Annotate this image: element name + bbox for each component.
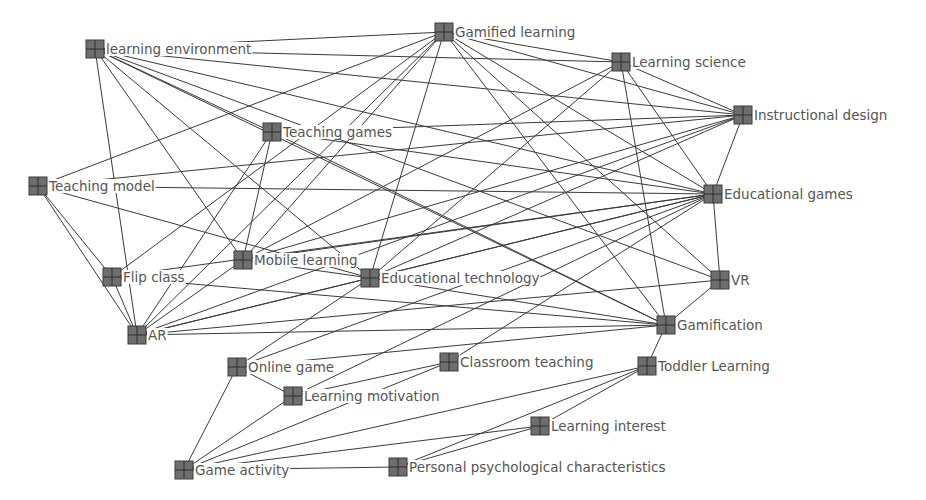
node-gamified-learning[interactable] [435, 23, 453, 41]
node-game-activity[interactable] [175, 461, 193, 479]
node-label-toddler-learning: Toddler Learning [657, 358, 770, 374]
node-label-learning-interest: Learning interest [551, 418, 666, 434]
edge-gamified-learning--instructional-design [444, 32, 743, 115]
node-flip-class[interactable] [103, 268, 121, 286]
edge-teaching-games--educational-games [272, 132, 713, 194]
edge-toddler-learning--learning-interest [540, 366, 647, 426]
node-mobile-learning[interactable] [234, 251, 252, 269]
network-graph: Gamified learninglearning environmentLea… [0, 0, 926, 500]
node-label-classroom-teaching: Classroom teaching [460, 354, 593, 370]
node-label-instructional-design: Instructional design [754, 107, 887, 123]
edge-teaching-games--mobile-learning [243, 132, 272, 260]
edge-instructional-design--educational-games [713, 115, 743, 194]
edge-teaching-games--ar [137, 132, 272, 335]
nodes-layer [29, 23, 752, 479]
node-toddler-learning[interactable] [638, 357, 656, 375]
node-personal-psych[interactable] [389, 458, 407, 476]
node-label-teaching-model: Teaching model [48, 178, 155, 194]
node-label-learning-motivation: Learning motivation [304, 388, 439, 404]
node-instructional-design[interactable] [734, 106, 752, 124]
node-educational-games[interactable] [704, 185, 722, 203]
edge-gamified-learning--mobile-learning [243, 32, 444, 260]
edge-online-game--game-activity [184, 367, 237, 470]
edge-ar--gamification [137, 325, 666, 335]
node-label-mobile-learning: Mobile learning [254, 252, 358, 268]
node-learning-science[interactable] [612, 53, 630, 71]
node-learning-interest[interactable] [531, 417, 549, 435]
node-label-educational-technology: Educational technology [381, 270, 540, 286]
edge-vr--ar [137, 280, 720, 335]
edge-teaching-model--ar [38, 186, 137, 335]
node-label-personal-psych: Personal psychological characteristics [409, 459, 666, 475]
node-teaching-games[interactable] [263, 123, 281, 141]
node-label-flip-class: Flip class [123, 269, 185, 285]
node-label-online-game: Online game [248, 359, 334, 375]
node-label-gamified-learning: Gamified learning [455, 24, 575, 40]
edge-educational-games--flip-class [112, 194, 713, 277]
node-label-game-activity: Game activity [195, 462, 289, 478]
node-label-learning-science: Learning science [632, 54, 746, 70]
edge-instructional-design--educational-technology [370, 115, 743, 278]
edge-gamified-learning--flip-class [112, 32, 444, 277]
edge-learning-science--educational-technology [370, 62, 621, 278]
edge-instructional-design--ar [137, 115, 743, 335]
node-vr[interactable] [711, 271, 729, 289]
node-label-ar: AR [148, 327, 167, 343]
node-teaching-model[interactable] [29, 177, 47, 195]
edge-educational-technology--ar [137, 278, 370, 335]
edge-teaching-model--flip-class [38, 186, 112, 277]
edges-layer [38, 32, 743, 470]
edge-learning-environment--educational-technology [95, 49, 370, 278]
node-online-game[interactable] [228, 358, 246, 376]
node-ar[interactable] [128, 326, 146, 344]
node-label-gamification: Gamification [677, 317, 763, 333]
edge-learning-environment--mobile-learning [95, 49, 243, 260]
node-classroom-teaching[interactable] [440, 353, 458, 371]
node-educational-technology[interactable] [361, 269, 379, 287]
edge-educational-games--vr [713, 194, 720, 280]
node-label-educational-games: Educational games [724, 186, 853, 202]
node-learning-motivation[interactable] [284, 387, 302, 405]
node-gamification[interactable] [657, 316, 675, 334]
edge-toddler-learning--personal-psych [398, 366, 647, 467]
node-label-vr: VR [731, 272, 750, 288]
node-label-learning-environment: learning environment [106, 41, 251, 57]
node-label-teaching-games: Teaching games [282, 124, 392, 140]
node-learning-environment[interactable] [86, 40, 104, 58]
labels-layer: Gamified learninglearning environmentLea… [47, 24, 888, 478]
